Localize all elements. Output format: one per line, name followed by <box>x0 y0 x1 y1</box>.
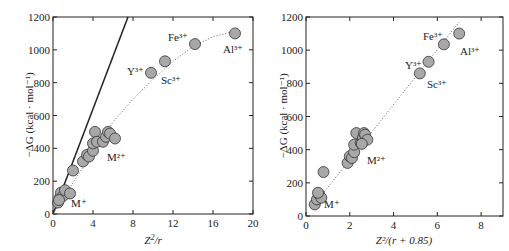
right-fit-lines <box>317 22 459 201</box>
label-fe3: Fe³⁺ <box>168 31 188 43</box>
y-tick-label: 800 <box>287 77 304 89</box>
y-tick-label: 200 <box>34 175 51 187</box>
label-m2-plus: M²⁺ <box>367 154 386 166</box>
x-tick-label: 12 <box>168 217 179 229</box>
data-point <box>318 167 329 178</box>
label-m-plus: M⁺ <box>324 198 340 210</box>
y-tick-label: 400 <box>34 142 51 154</box>
y-tick-label: 600 <box>287 111 304 123</box>
right-y-axis-label: −ΔG (kcal · mol⁻¹) <box>277 73 290 159</box>
data-point <box>190 39 201 50</box>
data-point <box>423 56 434 67</box>
data-point <box>230 28 241 39</box>
label-fe3: Fe³⁺ <box>423 30 443 42</box>
y-tick-label: 1000 <box>281 44 304 56</box>
y-tick-label: 1000 <box>28 44 51 56</box>
label-y3: Y³⁺ <box>405 59 422 71</box>
label-al3: Al³⁺ <box>223 43 243 55</box>
label-sc3: Sc³⁺ <box>427 78 447 90</box>
left-y-axis-label: −ΔG (kcal · mol⁻¹) <box>23 72 36 158</box>
x-tick-label: 8 <box>130 217 136 229</box>
data-point <box>90 126 101 137</box>
fit-curve-dotted <box>53 32 233 214</box>
fit-line-dotted <box>317 22 459 201</box>
x-tick-label: 0 <box>303 219 309 231</box>
y-tick-label: 0 <box>298 210 304 222</box>
y-tick-label: 600 <box>34 110 51 122</box>
left-data-points <box>53 28 241 208</box>
y-tick-label: 800 <box>34 77 51 89</box>
left-x-axis-label: Z2/r <box>144 233 162 246</box>
label-m-plus: M⁺ <box>71 197 87 209</box>
data-point <box>68 165 79 176</box>
label-sc3: Sc³⁺ <box>161 74 181 86</box>
data-point <box>356 138 367 149</box>
x-tick-label: 2 <box>347 219 353 231</box>
x-tick-label: 4 <box>90 217 96 229</box>
label-al3: Al³⁺ <box>460 45 480 57</box>
y-tick-label: 0 <box>45 208 51 220</box>
left-fit-lines <box>53 17 233 214</box>
data-point <box>160 56 171 67</box>
data-point <box>54 195 65 206</box>
x-tick-label: 4 <box>391 219 397 231</box>
y-tick-label: 1200 <box>28 11 51 23</box>
x-tick-label: 8 <box>478 219 484 231</box>
label-m2-plus: M²⁺ <box>107 151 126 163</box>
y-tick-label: 400 <box>287 144 304 156</box>
x-tick-label: 6 <box>435 219 441 231</box>
data-point <box>146 67 157 78</box>
x-tick-label: 16 <box>208 217 220 229</box>
y-tick-label: 1200 <box>281 11 304 23</box>
x-tick-label: 0 <box>50 217 56 229</box>
figure: 048121620020040060080010001200 M⁺ M²⁺ Y³… <box>0 0 509 251</box>
right-x-axis-label: Z²/(r + 0.85) <box>376 234 433 247</box>
right-data-points <box>309 28 464 210</box>
y-tick-label: 200 <box>287 177 304 189</box>
data-point <box>110 133 121 144</box>
data-point <box>454 28 465 39</box>
right-chart: 02468020040060080010001200 M⁺ M²⁺ Y³⁺ Sc… <box>277 11 503 247</box>
data-point <box>313 187 324 198</box>
left-chart: 048121620020040060080010001200 M⁺ M²⁺ Y³… <box>23 11 259 246</box>
label-y3: Y³⁺ <box>127 65 144 77</box>
x-tick-label: 20 <box>248 217 260 229</box>
